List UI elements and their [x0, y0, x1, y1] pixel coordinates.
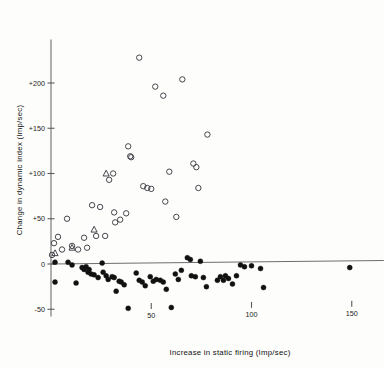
data-point-filled-circle [70, 262, 75, 267]
data-point-open-circle [205, 132, 210, 137]
x-axis-tick-label: 100 [246, 310, 258, 319]
data-point-filled-circle [193, 274, 198, 279]
data-point-filled-circle [204, 284, 209, 289]
x-axis-tick-label: 50 [147, 311, 155, 320]
data-point-filled-circle [261, 285, 266, 290]
data-point-filled-circle [126, 306, 131, 311]
data-point-open-circle [110, 171, 115, 176]
y-axis-tick-label: +50 [33, 214, 45, 223]
y-axis-tick-label: 0 [41, 260, 45, 269]
data-point-open-circle [174, 214, 179, 219]
data-point-open-circle [196, 185, 201, 190]
data-point-open-circle [106, 177, 111, 182]
data-point-open-circle [194, 164, 199, 169]
data-point-open-circle [161, 93, 166, 98]
data-point-filled-circle [176, 277, 181, 282]
data-point-open-circle [84, 245, 89, 250]
y-axis-tick-label: +200 [29, 79, 45, 88]
data-point-open-circle [97, 204, 102, 209]
data-point-open-circle [117, 217, 122, 222]
data-point-filled-circle [169, 305, 174, 310]
data-point-open-circle [93, 233, 98, 238]
data-point-open-circle [89, 202, 94, 207]
data-point-filled-circle [226, 276, 231, 281]
data-point-filled-circle [112, 275, 117, 280]
data-point-open-circle [163, 199, 168, 204]
data-point-open-circle [125, 144, 130, 149]
chart-canvas: -500+50+100+150+20050100150 Increase in … [0, 0, 384, 368]
y-axis-tick-label: +100 [29, 169, 45, 178]
data-point-filled-circle [161, 280, 166, 285]
data-point-filled-circle [201, 275, 206, 280]
data-markers-layer [49, 55, 352, 311]
data-point-filled-circle [179, 268, 184, 273]
data-point-filled-circle [347, 265, 352, 270]
data-point-open-circle [55, 234, 60, 239]
axes-layer: -500+50+100+150+20050100150 [29, 40, 384, 320]
data-point-open-circle [180, 77, 185, 82]
data-point-filled-circle [234, 273, 239, 278]
data-point-filled-circle [173, 271, 178, 276]
data-point-open-circle [137, 55, 142, 60]
scatter-plot-figure: -500+50+100+150+20050100150 Increase in … [0, 0, 384, 368]
data-point-filled-circle [122, 282, 127, 287]
data-point-open-circle [102, 233, 107, 238]
y-axis-tick-label: +150 [29, 124, 45, 133]
x-axis-tick-label: 150 [346, 309, 358, 318]
data-point-open-circle [51, 240, 56, 245]
data-point-filled-circle [143, 283, 148, 288]
data-point-filled-circle [100, 261, 105, 266]
data-point-filled-circle [242, 264, 247, 269]
series-open-circles [49, 55, 210, 258]
data-point-filled-circle [188, 257, 193, 262]
data-point-filled-circle [221, 278, 226, 283]
data-point-open-circle [191, 161, 196, 166]
data-point-filled-circle [96, 275, 101, 280]
data-point-filled-circle [148, 274, 153, 279]
data-point-open-triangle [103, 170, 109, 176]
data-point-open-circle [64, 216, 69, 221]
data-point-open-circle [81, 235, 86, 240]
data-point-filled-circle [134, 271, 139, 276]
series-open-triangles [52, 170, 109, 255]
data-point-open-circle [75, 247, 80, 252]
data-point-filled-circle [53, 280, 58, 285]
data-point-open-circle [59, 247, 64, 252]
x-axis-title: Increase in static firing (Imp/sec) [170, 348, 291, 357]
data-point-open-circle [153, 84, 158, 89]
data-point-filled-circle [74, 281, 79, 286]
y-axis-title: Change in dynamic index (Imp/sec) [15, 105, 24, 236]
data-point-filled-circle [198, 259, 203, 264]
data-point-filled-circle [230, 281, 235, 286]
data-point-open-circle [167, 169, 172, 174]
data-point-filled-circle [164, 287, 169, 292]
data-point-open-circle [123, 211, 128, 216]
data-point-open-triangle [91, 226, 97, 232]
data-point-filled-circle [258, 266, 263, 271]
data-point-filled-circle [249, 263, 254, 268]
data-point-filled-circle [53, 260, 58, 265]
y-axis-tick-label: -50 [35, 305, 45, 314]
data-point-filled-circle [114, 289, 119, 294]
data-point-open-circle [112, 220, 117, 225]
data-point-filled-circle [87, 267, 92, 272]
data-point-open-circle [111, 210, 116, 215]
